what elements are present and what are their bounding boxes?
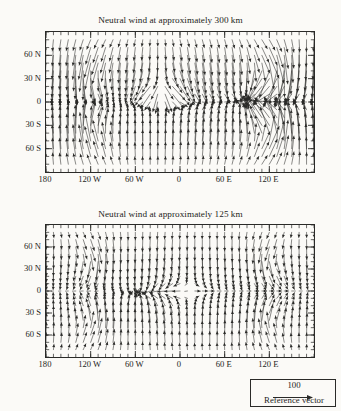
reference-vector-caption: Reference vector [251, 395, 337, 405]
plot-area-300km [45, 31, 315, 173]
y-tick-label: 30 S [25, 119, 41, 129]
x-axis-labels-125km: 180120 W60 W060 E120 E [45, 359, 313, 373]
y-tick-label: 60 N [24, 241, 41, 251]
x-tick-label: 120 W [78, 174, 101, 184]
y-tick-label: 0 [37, 96, 41, 106]
y-tick-label: 30 N [24, 73, 41, 83]
x-tick-label: 120 W [78, 359, 101, 369]
panel-125km: Neutral wind at approximately 125 km 60 … [0, 196, 341, 376]
plot-area-125km [45, 224, 315, 358]
x-tick-label: 60 W [125, 174, 144, 184]
y-axis-labels-300km: 60 N30 N030 S60 S [0, 31, 41, 171]
panel-title-125km: Neutral wind at approximately 125 km [0, 209, 341, 219]
x-axis-labels-300km: 180120 W60 W060 E120 E [45, 174, 313, 188]
y-tick-label: 30 S [25, 307, 41, 317]
y-tick-label: 0 [37, 285, 41, 295]
reference-vector-value: 100 [251, 380, 337, 390]
y-tick-label: 60 N [24, 49, 41, 59]
y-tick-label: 30 N [24, 263, 41, 273]
panel-300km: Neutral wind at approximately 300 km 60 … [0, 0, 341, 196]
x-tick-label: 60 W [125, 359, 144, 369]
panel-title-300km: Neutral wind at approximately 300 km [0, 15, 341, 25]
reference-vector-legend: 100 Reference vector [250, 379, 336, 407]
x-tick-label: 0 [177, 174, 181, 184]
x-tick-label: 60 E [216, 359, 232, 369]
x-tick-label: 180 [39, 174, 52, 184]
x-tick-label: 60 E [216, 174, 232, 184]
x-tick-label: 120 E [258, 359, 278, 369]
y-tick-label: 60 S [25, 329, 41, 339]
y-tick-label: 60 S [25, 143, 41, 153]
neutral-wind-figure: Neutral wind at approximately 300 km 60 … [0, 0, 341, 411]
x-tick-label: 120 E [258, 174, 278, 184]
vector-field-125km [46, 225, 314, 357]
vector-field-300km [46, 32, 314, 172]
x-tick-label: 180 [39, 359, 52, 369]
x-tick-label: 0 [177, 359, 181, 369]
y-axis-labels-125km: 60 N30 N030 S60 S [0, 224, 41, 356]
